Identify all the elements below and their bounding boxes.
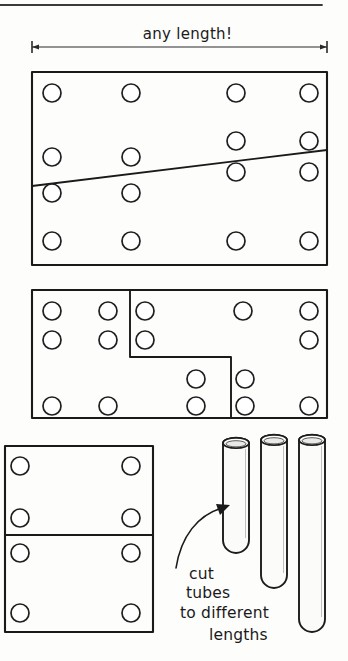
tube-short xyxy=(223,438,249,553)
bolt-hole xyxy=(122,544,140,562)
tube-medium xyxy=(261,435,287,588)
bolt-hole xyxy=(122,232,140,250)
bolt-hole xyxy=(122,148,140,166)
panel-top xyxy=(32,72,327,265)
bolt-hole xyxy=(122,509,140,527)
dimension-arrow-left xyxy=(32,44,39,49)
bolt-hole xyxy=(11,509,29,527)
bolt-hole xyxy=(11,544,29,562)
bolt-hole xyxy=(227,84,245,102)
bolt-hole xyxy=(300,397,318,415)
bolt-hole xyxy=(43,84,61,102)
bolt-hole xyxy=(43,148,61,166)
dimension-label: any length! xyxy=(143,25,232,43)
tube-long-bore xyxy=(302,438,322,444)
bolt-hole xyxy=(43,397,61,415)
tube-medium-bore xyxy=(264,438,284,444)
bolt-hole xyxy=(300,132,318,150)
bolt-hole xyxy=(122,604,140,622)
bolt-hole xyxy=(122,184,140,202)
bolt-hole xyxy=(11,457,29,475)
bolt-hole xyxy=(11,604,29,622)
cut-tubes-caption: cuttubesto differentlengths xyxy=(180,565,269,644)
bolt-hole xyxy=(234,302,252,320)
bolt-hole xyxy=(99,331,117,349)
dimension-group: any length! xyxy=(32,25,327,53)
bolt-hole xyxy=(300,331,318,349)
bolt-hole xyxy=(43,184,61,202)
panel-bottom-left xyxy=(5,446,153,632)
bolt-hole xyxy=(300,232,318,250)
bolt-hole xyxy=(136,302,154,320)
caption-line-2: tubes xyxy=(186,584,230,602)
bolt-hole xyxy=(43,232,61,250)
tubes-layer xyxy=(223,435,325,632)
bolt-hole xyxy=(99,302,117,320)
bolt-hole xyxy=(236,397,254,415)
bolt-hole xyxy=(227,232,245,250)
bolt-hole xyxy=(300,84,318,102)
bolt-hole xyxy=(99,397,117,415)
bolt-hole xyxy=(300,163,318,181)
sketch-canvas: any length! cuttubesto differentlengths xyxy=(0,0,348,661)
dimension-arrow-right xyxy=(320,44,327,49)
bolt-hole xyxy=(300,302,318,320)
tube-short-bore xyxy=(226,441,246,447)
panel-middle xyxy=(32,290,327,418)
bolt-hole xyxy=(187,397,205,415)
bolt-hole xyxy=(227,132,245,150)
caption-line-1: cut xyxy=(189,565,214,583)
bolt-hole xyxy=(122,457,140,475)
bolt-hole xyxy=(43,302,61,320)
tube-long xyxy=(299,435,325,632)
bolt-hole xyxy=(227,163,245,181)
cut-tubes-arrow xyxy=(176,508,222,568)
bolt-hole xyxy=(136,331,154,349)
construction-sketch: any length! cuttubesto differentlengths xyxy=(0,0,348,661)
caption-line-4: lengths xyxy=(209,626,268,644)
panel-top-diagonal-cut-line xyxy=(32,150,327,186)
panel-middle-outline xyxy=(32,290,327,418)
bolt-hole xyxy=(187,370,205,388)
bolt-hole xyxy=(236,370,254,388)
bolt-hole xyxy=(43,331,61,349)
caption-line-3: to different xyxy=(180,604,269,622)
bolt-hole xyxy=(122,84,140,102)
